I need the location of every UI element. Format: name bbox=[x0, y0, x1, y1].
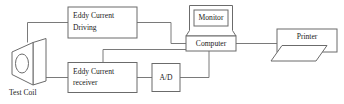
eddy-current-receiver-label-line1: Eddy Current bbox=[73, 67, 115, 76]
connector-eddy-current-driving-to-computer bbox=[137, 23, 186, 44]
node-computer: Computer bbox=[186, 36, 236, 51]
eddy-current-driving-label-line2: Driving bbox=[73, 23, 97, 32]
connector-eddy-current-receiver-to-computer bbox=[103, 50, 186, 63]
test-coil-caption: Test Coil bbox=[9, 88, 37, 97]
eddy-current-receiver-label-line2: receiver bbox=[73, 78, 98, 87]
diagram-canvas: Test Coil Eddy Current Driving Eddy Curr… bbox=[0, 0, 344, 104]
node-eddy-current-driving: Eddy Current Driving bbox=[68, 7, 137, 38]
connector-ad-converter-to-computer bbox=[180, 51, 209, 78]
computer-label: Computer bbox=[196, 39, 227, 48]
connector-test-coil-to-eddy-current-driving bbox=[28, 23, 69, 43]
node-test-coil: Test Coil bbox=[9, 39, 46, 98]
eddy-current-system-diagram: Test Coil Eddy Current Driving Eddy Curr… bbox=[0, 0, 344, 104]
test-coil-bore-ellipse bbox=[16, 54, 29, 73]
node-eddy-current-receiver: Eddy Current receiver bbox=[68, 63, 137, 93]
monitor-label: Monitor bbox=[199, 13, 224, 22]
node-printer: Printer bbox=[271, 29, 337, 61]
node-ad-converter: A/D bbox=[152, 64, 180, 92]
ad-converter-label: A/D bbox=[159, 73, 173, 82]
node-monitor: Monitor bbox=[186, 6, 236, 37]
printer-label: Printer bbox=[297, 32, 318, 41]
eddy-current-driving-label-line1: Eddy Current bbox=[73, 11, 115, 20]
test-coil-side-face bbox=[33, 39, 46, 86]
